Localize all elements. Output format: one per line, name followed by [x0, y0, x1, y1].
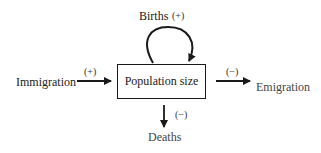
- immigration-label: Immigration: [16, 76, 76, 88]
- population-size-node: Population size: [117, 64, 206, 99]
- deaths-sign: (−): [175, 110, 187, 120]
- births-sign: (+): [172, 11, 184, 21]
- births-loop-arrow: [147, 27, 192, 63]
- population-size-label: Population size: [125, 74, 199, 89]
- immigration-sign: (+): [84, 67, 96, 77]
- births-label: Births: [139, 10, 168, 22]
- emigration-label: Emigration: [256, 81, 310, 93]
- emigration-sign: (−): [226, 67, 238, 77]
- deaths-label: Deaths: [148, 131, 181, 143]
